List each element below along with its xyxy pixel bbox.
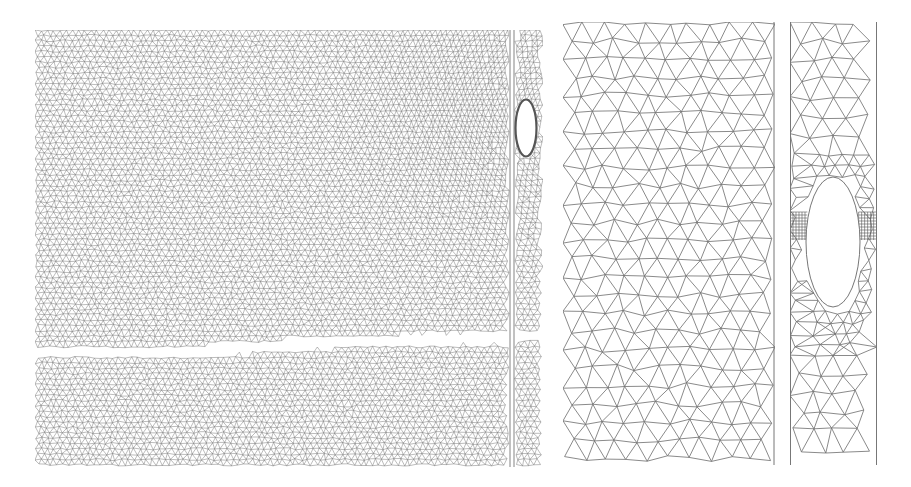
- mesh-svg: [563, 22, 775, 465]
- mesh-svg: [790, 22, 877, 465]
- full-domain-mesh-panel: Full domain mesh: [35, 30, 543, 467]
- zoom-hole-mesh-panel: Zoomed mesh around elliptical hole: [790, 22, 877, 465]
- mesh-figure: Finite element triangular meshes: full d…: [0, 0, 911, 487]
- triangle-mesh-edges: [563, 22, 775, 461]
- slit-boundary: [510, 30, 514, 467]
- mesh-svg: [35, 30, 543, 467]
- figure-description: Finite element triangular meshes: full d…: [0, 0, 1, 1]
- elliptical-hole: [806, 177, 860, 307]
- elliptical-hole: [516, 100, 537, 157]
- triangle-mesh-edges: [35, 30, 543, 466]
- zoom-left-mesh-panel: Zoomed mesh left of slit: [563, 22, 775, 465]
